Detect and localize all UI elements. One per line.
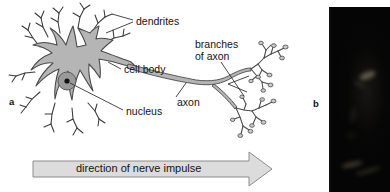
leader-branches-of-axon-3 <box>228 84 247 92</box>
micrograph-highlight-faint-mid <box>347 133 356 138</box>
leader-axon <box>176 83 186 97</box>
neuron-micrograph-panel <box>329 7 390 192</box>
label-branches-of-axon-line1: branches <box>195 39 238 51</box>
panel-label-a: a <box>9 96 14 107</box>
arrow-caption: direction of nerve impulse <box>76 163 201 175</box>
label-axon: axon <box>177 97 200 109</box>
label-dendrites: dendrites <box>136 16 179 28</box>
axon-lower-branch <box>212 84 237 109</box>
leader-dendrites-upper <box>112 14 133 20</box>
label-branches-of-axon-line2: of axon <box>195 51 229 63</box>
nucleus-dot <box>64 78 69 83</box>
panel-label-b: b <box>313 98 319 109</box>
axon-terminal-upper <box>251 44 284 89</box>
leader-dendrites-lower <box>106 22 133 33</box>
axon-terminal-lower <box>234 98 272 134</box>
label-cell-body: cell body <box>124 64 165 76</box>
label-nucleus: nucleus <box>126 106 162 118</box>
axon-terminal-lower-knobs <box>230 95 276 137</box>
